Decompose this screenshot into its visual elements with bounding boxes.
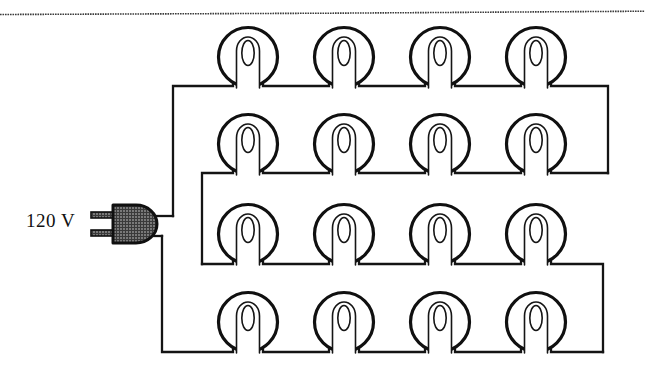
bulb-row-1 [219,28,566,89]
plug-assembly[interactable] [91,205,157,243]
bulb-r2-c4[interactable] [507,115,566,176]
bulb-r1-c4[interactable] [507,28,566,89]
bulb-r1-c3[interactable] [411,28,470,89]
bulb-r2-c1[interactable] [219,115,278,176]
circuit-diagram-figure: 120 V [0,0,645,372]
bulb-row-2 [219,115,566,176]
bulb-r4-c2[interactable] [315,293,374,354]
bulb-r2-c2[interactable] [315,115,374,176]
bulb-r2-c3[interactable] [411,115,470,176]
plug-body [113,205,157,243]
bulb-grid [219,28,566,354]
circuit-diagram-canvas [0,0,645,372]
bulb-r3-c1[interactable] [219,205,278,266]
bulb-row-3 [219,205,566,266]
bulb-r3-c2[interactable] [315,205,374,266]
bulb-r4-c1[interactable] [219,293,278,354]
voltage-source-label: 120 V [26,210,75,232]
bulb-r3-c4[interactable] [507,205,566,266]
bulb-r1-c2[interactable] [315,28,374,89]
bulb-row-4 [219,293,566,354]
bulb-r4-c4[interactable] [507,293,566,354]
bulb-r1-c1[interactable] [219,28,278,89]
page-top-rule [0,11,645,14]
bulb-r3-c3[interactable] [411,205,470,266]
bulb-r4-c3[interactable] [411,293,470,354]
